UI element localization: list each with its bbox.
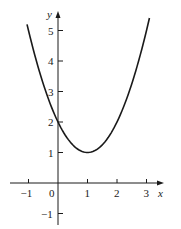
x-tick-label: 2 (114, 187, 120, 199)
x-axis-label: x (157, 187, 163, 199)
parabola-chart: −1012354321−1 x y (0, 0, 181, 229)
x-tick-label: 1 (85, 187, 91, 199)
y-tick-label: 1 (48, 147, 54, 159)
y-tick-label: 5 (48, 25, 54, 37)
x-tick-label: −1 (21, 187, 33, 199)
tick-labels: −1012354321−1 (21, 25, 150, 220)
y-axis-arrow-icon (56, 11, 61, 18)
parabola-curve (27, 18, 149, 152)
y-tick-label: −1 (41, 208, 53, 220)
y-tick-label: 4 (48, 55, 54, 67)
x-tick-label: 0 (49, 187, 55, 199)
x-tick-label: 3 (144, 187, 150, 199)
y-axis-label: y (46, 8, 52, 20)
x-axis-arrow-icon (157, 181, 164, 186)
y-tick-label: 3 (48, 86, 54, 98)
y-tick-label: 2 (48, 116, 54, 128)
